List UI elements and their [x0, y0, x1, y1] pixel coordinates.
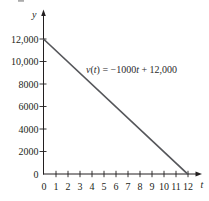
- y-axis-arrow-icon: [41, 10, 46, 17]
- x-tick-label-12: 12: [183, 181, 193, 192]
- x-tick-label-9: 9: [150, 181, 155, 192]
- equation-part-intercept: + 12,000: [139, 64, 177, 75]
- y-tick-label-6000: 6000: [19, 101, 39, 112]
- y-tick-label-0: 0: [34, 169, 39, 180]
- data-line-v-of-t: [44, 39, 189, 174]
- line-graph-figure: 0 2000 4000 6000 8000 10,000 12,000 0 1 …: [0, 0, 209, 201]
- x-tick-label-4: 4: [90, 181, 95, 192]
- x-axis-label: t: [201, 179, 204, 190]
- x-tick-label-2: 2: [66, 181, 71, 192]
- equation-annotation: v(t) = −1000t + 12,000: [86, 64, 177, 76]
- equation-part-equals-coeff: ) = −1000: [97, 64, 137, 76]
- chart-canvas: 0 2000 4000 6000 8000 10,000 12,000 0 1 …: [0, 0, 209, 201]
- x-tick-label-0: 0: [42, 181, 47, 192]
- y-tick-label-4000: 4000: [19, 124, 39, 135]
- x-tick-label-8: 8: [138, 181, 143, 192]
- x-tick-labels: 0 1 2 3 4 5 6 7 8 9 10 11 12: [42, 181, 194, 192]
- x-tick-label-1: 1: [54, 181, 59, 192]
- y-tick-label-2000: 2000: [19, 146, 39, 157]
- x-tick-label-10: 10: [159, 181, 169, 192]
- x-tick-label-11: 11: [171, 181, 181, 192]
- x-tick-label-7: 7: [126, 181, 131, 192]
- y-tick-labels: 0 2000 4000 6000 8000 10,000 12,000: [11, 34, 39, 181]
- x-tick-label-5: 5: [102, 181, 107, 192]
- x-tick-label-6: 6: [114, 181, 119, 192]
- y-axis-label: y: [31, 9, 37, 20]
- y-tick-label-12000: 12,000: [11, 34, 39, 45]
- x-axis-arrow-icon: [196, 172, 203, 177]
- x-tick-label-3: 3: [78, 181, 83, 192]
- y-tick-label-10000: 10,000: [11, 56, 39, 67]
- y-tick-label-8000: 8000: [19, 79, 39, 90]
- cropped-artifact: [18, 0, 24, 2]
